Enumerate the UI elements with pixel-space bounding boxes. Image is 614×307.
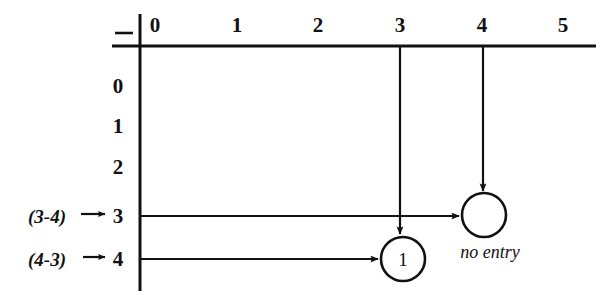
row-header-2: 2: [113, 157, 124, 178]
cell-row4-col3-value: 1: [398, 250, 408, 269]
column-header-1: 1: [232, 15, 243, 36]
row-header-1: 1: [113, 116, 124, 137]
column-header-5: 5: [558, 15, 569, 36]
cell-row3-col4-circle: [462, 193, 506, 237]
column-header-3: 3: [395, 15, 406, 36]
side-annotation-4-3: (4-3): [28, 250, 66, 269]
row-header-4: 4: [113, 249, 124, 270]
column-header-2: 2: [313, 15, 324, 36]
no-entry-callout: no entry: [460, 243, 519, 261]
matrix-grid-diagram: 0 1 2 3 4 5 0 1 2 3 4 (3-4) (4-3) 1 no e…: [0, 0, 614, 307]
diagram-canvas: [0, 0, 614, 307]
column-header-0: 0: [150, 15, 161, 36]
column-header-4: 4: [477, 15, 488, 36]
row-header-3: 3: [113, 206, 124, 227]
row-header-0: 0: [113, 76, 124, 97]
side-annotation-3-4: (3-4): [28, 207, 66, 226]
